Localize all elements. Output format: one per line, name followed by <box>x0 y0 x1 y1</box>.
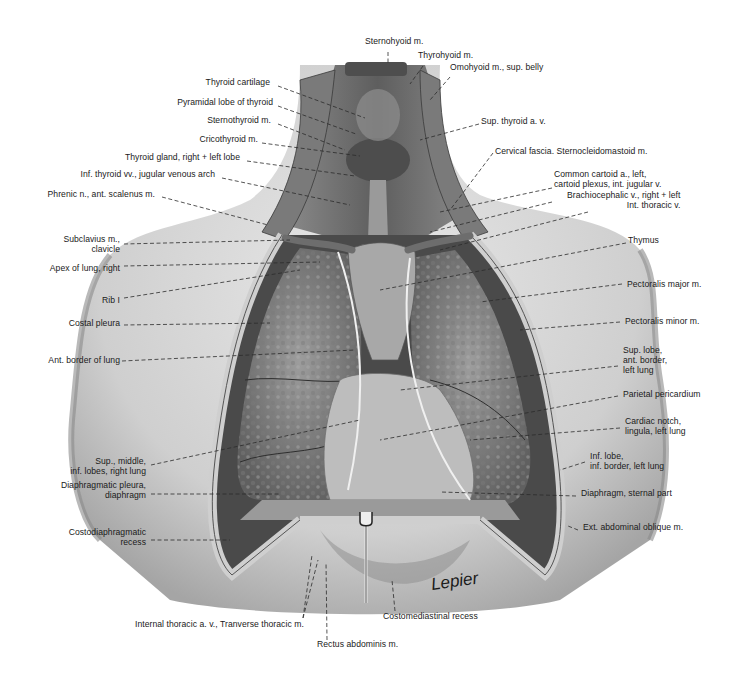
label-line: Costomediastinal recess <box>383 611 478 621</box>
label-apex-lung: Apex of lung, right <box>50 263 120 273</box>
retractor-hook <box>360 512 372 526</box>
label-line: Costal pleura <box>69 318 120 328</box>
label-line: Cricothyroid m. <box>199 134 258 144</box>
label-line: Diaphragm, sternal part <box>581 488 672 498</box>
label-pectoralis-major: Pectoralis major m. <box>627 279 702 289</box>
label-line: Sup. thyroid a. v. <box>481 116 546 126</box>
label-line: Pectoralis minor m. <box>625 316 700 326</box>
label-line: Apex of lung, right <box>50 263 120 273</box>
label-pyramidal-lobe: Pyramidal lobe of thyroid <box>177 97 273 107</box>
label-line: inf. lobes, right lung <box>70 466 146 476</box>
label-internal-thoracic: Internal thoracic a. v., Tranverse thora… <box>135 619 304 629</box>
label-thyroid-cartilage: Thyroid cartilage <box>206 77 270 87</box>
label-common-carotid: Common cartoid a., left,cartoid plexus, … <box>554 169 661 189</box>
label-line: Diaphragmatic pleura, <box>61 480 146 490</box>
label-costal-pleura: Costal pleura <box>69 318 120 328</box>
label-parietal-pericardium: Parietal pericardium <box>623 389 700 399</box>
label-line: Phrenic n., ant. scalenus m. <box>48 189 155 199</box>
label-phrenic-n: Phrenic n., ant. scalenus m. <box>48 189 155 199</box>
label-line: Sup. lobe, <box>623 345 667 355</box>
label-line: Ext. abdominal oblique m. <box>583 522 683 532</box>
label-diaphragm-sternal: Diaphragm, sternal part <box>581 488 672 498</box>
label-line: Rectus abdominis m. <box>317 639 398 649</box>
label-line: Parietal pericardium <box>623 389 700 399</box>
label-line: lingula, left lung <box>625 426 686 436</box>
label-line: ant. border, <box>623 355 667 365</box>
trachea <box>368 180 388 240</box>
label-line: cartoid plexus, int. jugular v. <box>554 179 661 189</box>
label-thyroid-gland: Thyroid gland, right + left lobe <box>125 152 240 162</box>
label-line: inf. border, left lung <box>590 461 664 471</box>
label-line: Cardiac notch, <box>625 416 686 426</box>
label-sternohyoid: Sternohyoid m. <box>365 36 424 46</box>
label-line: Subclavius m., <box>63 234 120 244</box>
label-ext-abdominal-oblique: Ext. abdominal oblique m. <box>583 522 683 532</box>
label-cardiac-notch: Cardiac notch,lingula, left lung <box>625 416 686 436</box>
label-line: Thyrohyoid m. <box>418 50 473 60</box>
label-ant-border-lung: Ant. border of lung <box>48 355 120 365</box>
thyroid-cartilage <box>356 89 400 141</box>
label-rectus-abdominis: Rectus abdominis m. <box>317 639 398 649</box>
thyroid-gland <box>346 138 410 182</box>
label-line: Rib I <box>102 295 120 305</box>
label-costomediastinal: Costomediastinal recess <box>383 611 478 621</box>
hyoid <box>345 62 407 76</box>
label-right-lung-lobes: Sup., middle,inf. lobes, right lung <box>70 456 146 476</box>
thorax-illustration: Lepier <box>0 0 746 685</box>
label-line: Sternothyroid m. <box>207 115 271 125</box>
label-sup-thyroid: Sup. thyroid a. v. <box>481 116 546 126</box>
label-line: Pectoralis major m. <box>627 279 702 289</box>
label-line: clavicle <box>63 244 120 254</box>
label-line: Thyroid gland, right + left lobe <box>125 152 240 162</box>
label-line: Thyroid cartilage <box>206 77 270 87</box>
anatomy-figure: Lepier Sternohyoid m.Thyrohyoid m.Omohyo… <box>0 0 746 685</box>
label-line: Brachiocephalic v., right + left <box>567 190 680 200</box>
label-diaphragmatic-pleura: Diaphragmatic pleura,diaphragm <box>61 480 146 500</box>
label-line: Inf. thyroid vv., jugular venous arch <box>81 169 215 179</box>
label-cricothyroid: Cricothyroid m. <box>199 134 258 144</box>
label-subclavius: Subclavius m.,clavicle <box>63 234 120 254</box>
label-line: recess <box>69 537 146 547</box>
label-line: Inf. lobe, <box>590 451 664 461</box>
label-thymus: Thymus <box>628 235 659 245</box>
label-line: Costodiaphragmatic <box>69 527 146 537</box>
label-cervical-fascia: Cervical fascia. Sternocleidomastoid m. <box>495 146 647 156</box>
label-sternothyroid: Sternothyroid m. <box>207 115 271 125</box>
label-brachiocephalic: Brachiocephalic v., right + leftInt. tho… <box>567 190 680 210</box>
label-line: diaphragm <box>61 490 146 500</box>
label-inf-lobe-left: Inf. lobe,inf. border, left lung <box>590 451 664 471</box>
label-line: Thymus <box>628 235 659 245</box>
label-costodiaphragmatic: Costodiaphragmaticrecess <box>69 527 146 547</box>
label-line: Cervical fascia. Sternocleidomastoid m. <box>495 146 647 156</box>
label-line: Internal thoracic a. v., Tranverse thora… <box>135 619 304 629</box>
label-line: Common cartoid a., left, <box>554 169 661 179</box>
label-pectoralis-minor: Pectoralis minor m. <box>625 316 700 326</box>
label-line: Int. thoracic v. <box>567 200 680 210</box>
label-line: Omohyoid m., sup. belly <box>450 62 543 72</box>
label-line: Ant. border of lung <box>48 355 120 365</box>
label-line: Sternohyoid m. <box>365 36 424 46</box>
label-line: Sup., middle, <box>70 456 146 466</box>
label-sup-lobe-left: Sup. lobe,ant. border,left lung <box>623 345 667 375</box>
label-thyrohyoid: Thyrohyoid m. <box>418 50 473 60</box>
label-rib-1: Rib I <box>102 295 120 305</box>
label-inf-thyroid-vv: Inf. thyroid vv., jugular venous arch <box>81 169 215 179</box>
label-omohyoid: Omohyoid m., sup. belly <box>450 62 543 72</box>
label-line: left lung <box>623 365 667 375</box>
label-line: Pyramidal lobe of thyroid <box>177 97 273 107</box>
